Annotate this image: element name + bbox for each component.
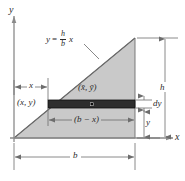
centroid-label: (x̄, ȳ) <box>78 83 96 92</box>
y-axis-label: y <box>9 5 13 15</box>
dimension-h-text: h <box>160 82 165 92</box>
dimension-y-label: y <box>146 118 150 127</box>
equation-leader-line <box>84 44 99 59</box>
point-xy-label: (x, y) <box>17 98 35 107</box>
dimension-dy <box>136 96 152 112</box>
equation-equals: = <box>52 34 57 44</box>
dimension-dy-label: dy <box>153 99 162 108</box>
centroid-triangle-figure: y x y = h b x (x, y) (x̄, ȳ) (b − x) x … <box>0 0 185 181</box>
dimension-b-text: b <box>73 150 78 160</box>
x-axis-label: x <box>175 132 179 142</box>
equation-variable: x <box>69 34 73 44</box>
strip-width-label: (b − x) <box>72 114 101 124</box>
dimension-x-text: x <box>29 80 33 90</box>
fraction-denominator: b <box>60 40 66 48</box>
centroid-dot <box>90 103 93 106</box>
curve-equation: y = h b x <box>46 30 73 48</box>
fraction-numerator: h <box>60 30 66 38</box>
dimension-b-label: b <box>70 150 81 160</box>
dimension-x-label: x <box>27 80 35 90</box>
dimension-h-label: h <box>158 82 167 92</box>
strip-width-text: (b − x) <box>74 114 99 124</box>
equation-lhs: y <box>46 34 50 44</box>
equation-fraction: h b <box>60 30 66 48</box>
